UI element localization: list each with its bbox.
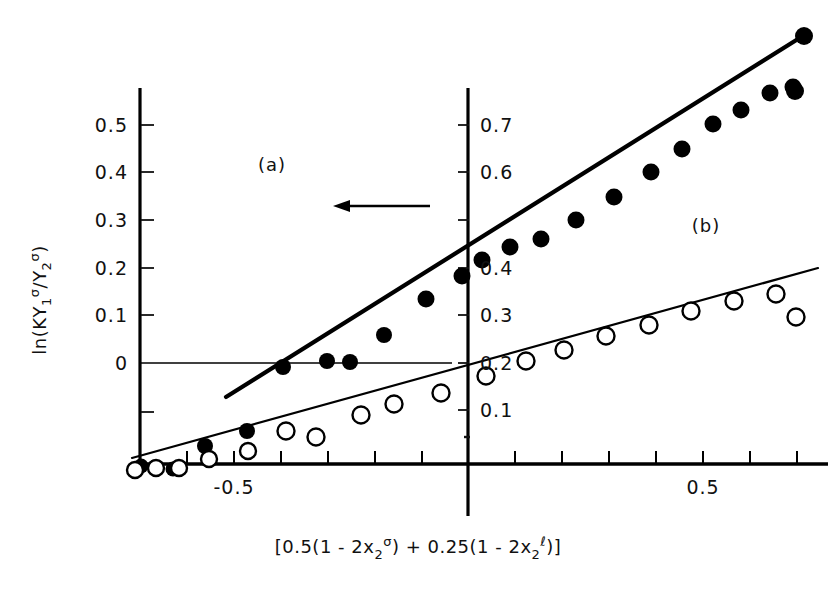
data-point-filled	[733, 102, 750, 119]
data-point-open	[308, 429, 325, 446]
data-point-filled	[568, 212, 585, 229]
data-point-filled	[376, 327, 392, 343]
data-point-open	[386, 396, 403, 413]
right-tick-label: 0.1	[480, 399, 513, 421]
left-tick-label: 0.4	[95, 161, 128, 183]
data-point-open	[726, 293, 743, 310]
data-point-open	[278, 423, 295, 440]
left-tick-label: 0.5	[95, 114, 128, 136]
right-tick-label: 0.4	[480, 257, 513, 279]
xlabel-t2-sup: ℓ	[539, 534, 546, 549]
data-point-open	[788, 309, 805, 326]
ylabel-sub2: 2	[39, 262, 54, 271]
data-point-filled	[533, 231, 550, 248]
right-tick-label: 0.2	[480, 352, 513, 374]
data-point-open	[641, 317, 658, 334]
xlabel-t1: 0.5(1 - 2x	[282, 536, 374, 557]
ylabel-mid: /Υ	[29, 270, 50, 289]
data-point-open	[556, 342, 573, 359]
data-point-filled	[606, 189, 623, 206]
arrow-left-annotation	[333, 200, 430, 212]
ylabel-lead: ln(KΥ	[29, 305, 50, 354]
xlabel-t2-sub: 2	[532, 547, 541, 562]
data-point-open	[433, 385, 450, 402]
left-y-axis-ticks	[141, 125, 154, 412]
data-point-open	[683, 303, 700, 320]
data-point-filled	[674, 141, 691, 158]
xlabel-t1-sub: 2	[374, 547, 383, 562]
x-tick-label: 0.5	[686, 476, 719, 498]
y-axis-title: ln(KΥ1σ/Υ2σ)	[27, 245, 54, 354]
right-tick-label: 0.3	[480, 304, 513, 326]
series-b-label: (b)	[692, 215, 720, 236]
ylabel-sup1: σ	[27, 288, 42, 297]
data-point-open	[201, 451, 217, 467]
data-point-open	[148, 460, 164, 476]
ylabel-sub1: 1	[39, 297, 54, 306]
data-point-open	[240, 443, 256, 459]
x-axis-ticks	[187, 451, 797, 464]
left-tick-label: 0.1	[95, 304, 128, 326]
data-point-filled	[502, 239, 519, 256]
xlabel-t2: ) + 0.25(1 - 2x	[392, 536, 532, 557]
data-point-open	[127, 462, 143, 478]
scatter-plot-svg: 0.5 0.4 0.3 0.2 0.1 0 0.7 0.6 0.4 0.3 0.…	[0, 0, 837, 596]
x-axis-title: [0.5(1 - 2x2σ) + 0.25(1 - 2x2ℓ)]	[275, 534, 562, 562]
data-point-filled	[319, 353, 335, 369]
data-point-open	[518, 353, 535, 370]
right-tick-label: 0.6	[480, 161, 513, 183]
left-tick-label: 0.3	[95, 209, 128, 231]
left-axis-tick-labels: 0.5 0.4 0.3 0.2 0.1 0	[95, 114, 128, 374]
data-point-open	[353, 407, 370, 424]
data-point-filled	[454, 268, 471, 285]
data-point-open	[171, 460, 187, 476]
xlabel-close: )]	[546, 536, 561, 557]
data-point-filled	[275, 359, 291, 375]
ylabel-sup2: σ	[27, 253, 42, 262]
x-tick-label: -0.5	[213, 476, 254, 498]
right-tick-label: 0.7	[480, 114, 513, 136]
figure-container: 0.5 0.4 0.3 0.2 0.1 0 0.7 0.6 0.4 0.3 0.…	[0, 0, 837, 596]
series-a-label: (a)	[258, 154, 286, 175]
left-tick-label: 0	[115, 352, 128, 374]
svg-text:ln(KΥ1σ/Υ2σ): ln(KΥ1σ/Υ2σ)	[27, 245, 54, 354]
data-point-filled	[643, 164, 660, 181]
xlabel-t1-sup: σ	[383, 534, 392, 549]
data-point-filled	[762, 85, 779, 102]
data-point-filled	[418, 291, 435, 308]
data-point-filled	[786, 82, 804, 100]
xlabel-bracket: [	[275, 536, 283, 557]
data-point-filled	[239, 423, 255, 439]
data-point-filled	[342, 354, 358, 370]
data-point-open	[598, 328, 615, 345]
data-point-filled	[795, 27, 813, 45]
data-point-filled	[705, 116, 722, 133]
ylabel-tail: )	[29, 245, 50, 253]
left-tick-label: 0.2	[95, 257, 128, 279]
data-point-open	[768, 286, 785, 303]
